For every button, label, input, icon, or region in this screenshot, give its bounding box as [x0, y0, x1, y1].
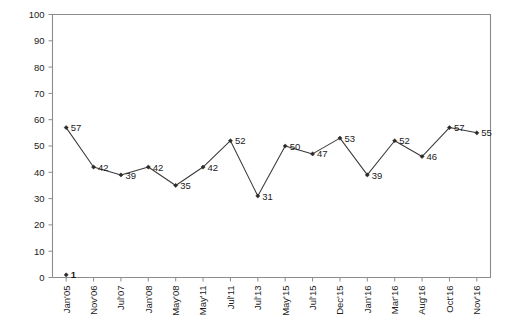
- x-tick-label: Oct'16: [444, 286, 455, 313]
- y-tick-label: 0: [39, 272, 44, 283]
- x-tick-label: Jul'13: [252, 286, 263, 311]
- data-point-label: 39: [125, 170, 136, 181]
- data-point-marker: [256, 194, 260, 198]
- data-point-label: 57: [454, 122, 465, 133]
- line-chart: 0102030405060708090100 Jan'05Nov'06Jul'0…: [0, 0, 517, 330]
- x-tick-label: May'15: [280, 286, 291, 316]
- data-point-label: 47: [317, 148, 328, 159]
- data-point-label: 53: [344, 133, 355, 144]
- x-tick-label: Jul'07: [115, 286, 126, 311]
- data-point-labels: 57423942354252315047533952465755: [71, 122, 492, 201]
- data-line: [66, 128, 477, 196]
- x-tick-label: Nov'06: [88, 286, 99, 315]
- x-axis-labels: Jan'05Nov'06Jul'07Jan'08May'08May'11Jul'…: [61, 286, 483, 316]
- data-point-label: 57: [71, 122, 82, 133]
- data-point-marker: [119, 173, 123, 177]
- y-tick-label: 60: [34, 114, 45, 125]
- y-tick-label: 20: [34, 219, 45, 230]
- data-point-marker: [310, 152, 314, 156]
- y-tick-label: 80: [34, 62, 45, 73]
- data-point-label: 52: [235, 135, 246, 146]
- y-tick-label: 30: [34, 193, 45, 204]
- x-tick-label: Dec'15: [334, 286, 345, 315]
- x-tick-label: Jan'08: [143, 286, 154, 314]
- annotation-label: 1: [71, 269, 77, 280]
- data-markers: [64, 125, 479, 198]
- data-point-marker: [475, 131, 479, 135]
- y-tick-label: 90: [34, 35, 45, 46]
- annotation-marker: [64, 273, 68, 277]
- data-point-label: 46: [427, 151, 438, 162]
- data-point-label: 35: [180, 180, 191, 191]
- x-axis-ticks: [66, 278, 477, 282]
- data-point-label: 39: [372, 170, 383, 181]
- x-tick-label: Jan'05: [61, 286, 72, 314]
- y-tick-label: 40: [34, 167, 45, 178]
- data-point-label: 52: [399, 135, 410, 146]
- y-axis-ticks: [49, 15, 53, 278]
- data-point-label: 42: [153, 162, 164, 173]
- x-tick-label: May'08: [170, 286, 181, 316]
- data-point-label: 50: [290, 141, 301, 152]
- x-tick-label: Mar'16: [389, 286, 400, 315]
- y-tick-label: 70: [34, 88, 45, 99]
- y-tick-label: 50: [34, 140, 45, 151]
- data-point-label: 42: [208, 162, 219, 173]
- x-tick-label: Jul'15: [307, 286, 318, 311]
- y-tick-label: 10: [34, 246, 45, 257]
- data-point-label: 31: [262, 191, 273, 202]
- y-tick-label: 100: [29, 9, 45, 20]
- data-point-marker: [283, 144, 287, 148]
- y-axis-labels: 0102030405060708090100: [29, 9, 45, 283]
- data-point-label: 42: [98, 162, 109, 173]
- x-tick-label: Jul'11: [225, 286, 236, 310]
- data-point-label: 55: [481, 127, 492, 138]
- plot-frame: [53, 15, 491, 278]
- x-tick-label: May'11: [197, 286, 208, 316]
- chart-canvas: 0102030405060708090100 Jan'05Nov'06Jul'0…: [0, 0, 517, 330]
- x-tick-label: Aug'16: [416, 286, 427, 315]
- x-tick-label: Jan'16: [362, 286, 373, 314]
- x-tick-label: Nov'16: [471, 286, 482, 315]
